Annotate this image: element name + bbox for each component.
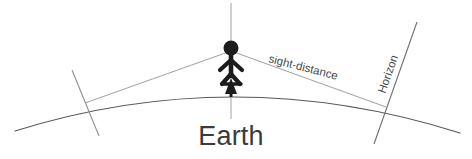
diagram-canvas: sight-distance Horizon Earth bbox=[0, 0, 472, 159]
earth-horizon-diagram: sight-distance Horizon Earth bbox=[0, 0, 472, 159]
earth-label: Earth bbox=[198, 121, 264, 151]
